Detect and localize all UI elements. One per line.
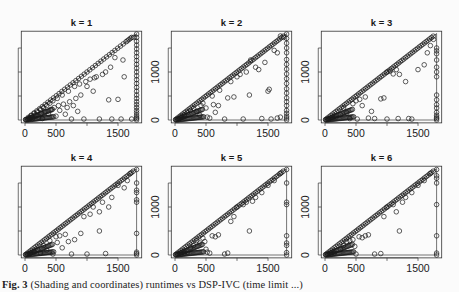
x-tick-label: 0 xyxy=(322,127,328,139)
data-point xyxy=(63,232,68,237)
data-point xyxy=(363,95,368,100)
diagonal-line xyxy=(25,34,137,120)
x-tick-label: 500 xyxy=(197,262,215,274)
data-point xyxy=(106,98,111,103)
y-tick-label: 0 xyxy=(149,252,161,258)
x-tick-label: 0 xyxy=(172,127,178,139)
data-point xyxy=(65,105,70,110)
data-point xyxy=(55,240,60,245)
panel-title: k = 6 xyxy=(371,152,392,163)
data-point xyxy=(216,103,221,108)
data-point xyxy=(366,233,371,238)
data-point xyxy=(229,219,234,224)
figure-caption: Fig. 3 (Shading and coordinates) runtime… xyxy=(2,279,303,290)
data-point xyxy=(422,63,427,68)
data-point xyxy=(79,231,84,236)
x-tick-label: 1500 xyxy=(106,262,130,274)
data-point xyxy=(69,117,74,122)
data-point xyxy=(103,70,108,75)
figure-caption-label: Fig. 3 xyxy=(2,279,28,290)
data-point xyxy=(108,65,113,70)
data-point xyxy=(360,103,365,108)
x-tick-label: 0 xyxy=(22,127,28,139)
data-point xyxy=(263,60,268,65)
x-tick-label: 1500 xyxy=(406,127,430,139)
data-point xyxy=(210,234,215,239)
y-tick-label: 0 xyxy=(299,117,311,123)
y-tick-label: 1000 xyxy=(149,195,161,219)
data-point xyxy=(385,117,390,122)
data-point xyxy=(57,108,62,113)
data-point xyxy=(72,237,77,242)
data-point xyxy=(247,229,252,234)
y-tick-label: 1000 xyxy=(149,60,161,84)
data-point xyxy=(278,115,283,120)
data-point xyxy=(121,58,126,63)
data-point xyxy=(351,237,356,242)
diagonal-line xyxy=(175,169,287,255)
data-point xyxy=(91,89,96,94)
panel-title: k = 3 xyxy=(371,17,392,28)
data-point xyxy=(357,234,362,239)
data-point xyxy=(106,205,111,210)
data-point xyxy=(119,117,124,122)
data-point xyxy=(211,102,216,107)
data-point xyxy=(403,79,408,84)
data-point xyxy=(235,75,240,80)
data-point xyxy=(63,112,68,117)
panel-title: k = 1 xyxy=(71,17,93,28)
data-point xyxy=(247,93,252,98)
y-tick-label: 1000 xyxy=(299,195,311,219)
data-point xyxy=(225,251,230,256)
panel-k1: k = 105001500 xyxy=(18,17,141,139)
data-point xyxy=(213,110,218,115)
data-point xyxy=(97,210,102,215)
data-point xyxy=(222,117,227,122)
data-point xyxy=(256,67,261,72)
data-point xyxy=(422,178,427,183)
data-point xyxy=(244,70,249,75)
data-point xyxy=(110,117,115,122)
panel-k2: k = 20500150001000 xyxy=(149,17,291,139)
data-point xyxy=(71,103,76,108)
data-point xyxy=(416,67,421,72)
data-point xyxy=(77,82,82,87)
data-point xyxy=(82,214,87,219)
y-tick-label: 0 xyxy=(149,117,161,123)
x-tick-label: 0 xyxy=(172,262,178,274)
data-point xyxy=(74,96,79,101)
data-point xyxy=(88,77,93,82)
diagonal-line xyxy=(25,169,137,255)
data-point xyxy=(369,109,374,114)
data-point xyxy=(372,252,377,257)
data-point xyxy=(382,214,387,219)
x-tick-label: 1500 xyxy=(106,127,130,139)
y-tick-label: 1000 xyxy=(299,60,311,84)
data-point xyxy=(272,178,277,183)
data-point xyxy=(410,117,415,122)
x-tick-label: 0 xyxy=(22,262,28,274)
data-point xyxy=(61,102,66,107)
data-point xyxy=(110,195,115,200)
data-point xyxy=(428,43,433,48)
data-point xyxy=(116,97,121,102)
data-point xyxy=(100,200,105,205)
data-point xyxy=(394,210,399,215)
data-point xyxy=(75,109,80,114)
data-point xyxy=(400,200,405,205)
data-point xyxy=(222,252,227,257)
data-point xyxy=(122,186,127,191)
data-point xyxy=(225,96,230,101)
data-point xyxy=(60,246,65,251)
data-point xyxy=(275,51,280,56)
data-point xyxy=(366,116,371,121)
x-tick-label: 1500 xyxy=(406,262,430,274)
data-point xyxy=(217,88,222,93)
data-point xyxy=(67,99,72,104)
data-point xyxy=(253,65,258,70)
data-point xyxy=(425,51,430,56)
data-point xyxy=(232,214,237,219)
data-point xyxy=(122,75,127,80)
x-tick-label: 0 xyxy=(322,262,328,274)
data-point xyxy=(232,95,237,100)
